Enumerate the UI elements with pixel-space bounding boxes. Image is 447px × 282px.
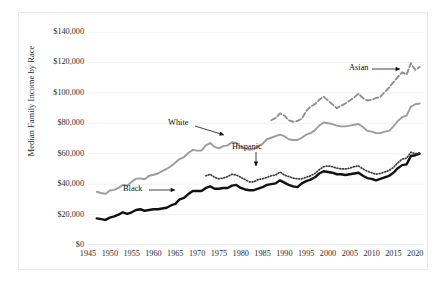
annotation-arrows bbox=[0, 0, 447, 282]
arrow-asian bbox=[372, 67, 400, 71]
arrow-white bbox=[195, 126, 224, 136]
chart-figure: $0$20,000$40,000$60,000$80,000$100,000$1… bbox=[0, 0, 447, 282]
arrow-black bbox=[149, 188, 175, 192]
arrow-hispanic bbox=[254, 152, 258, 166]
